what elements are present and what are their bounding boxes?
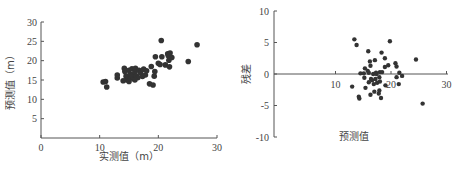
- data-point: [104, 84, 110, 90]
- data-point: [114, 72, 120, 78]
- data-point: [378, 79, 382, 83]
- data-point: [397, 82, 401, 86]
- y-tick-label: 0: [264, 69, 269, 80]
- data-point: [366, 49, 370, 53]
- data-point: [377, 91, 381, 95]
- data-point: [350, 84, 354, 88]
- data-point: [394, 75, 398, 79]
- x-axis-label: 预测值: [339, 130, 369, 142]
- y-tick-label: 20: [27, 55, 37, 66]
- y-axis-label: 残差: [240, 64, 252, 84]
- y-tick-label: -10: [256, 132, 269, 143]
- x-axis-label: 实测值（m）: [99, 150, 159, 162]
- x-tick-label: 10: [331, 79, 341, 90]
- data-point: [368, 59, 372, 63]
- data-point: [368, 64, 372, 68]
- data-point: [368, 93, 372, 97]
- data-point: [383, 56, 387, 60]
- data-point: [362, 76, 366, 80]
- x-tick-label: 30: [442, 79, 452, 90]
- x-tick-label: 20: [386, 79, 396, 90]
- data-point: [352, 37, 356, 41]
- data-point: [167, 64, 173, 70]
- y-tick-label: 5: [264, 37, 269, 48]
- data-point: [362, 71, 366, 75]
- data-points: [350, 37, 425, 106]
- y-tick-label: 25: [27, 36, 37, 47]
- data-point: [414, 57, 418, 61]
- data-point: [379, 96, 383, 100]
- data-point: [373, 58, 377, 62]
- data-point: [388, 39, 392, 43]
- data-point: [132, 77, 138, 83]
- data-point: [386, 63, 390, 67]
- x-tick-label: 0: [39, 142, 44, 153]
- data-point: [159, 54, 165, 60]
- data-point: [153, 54, 159, 60]
- data-point: [363, 86, 367, 90]
- y-tick-label: 5: [32, 113, 37, 124]
- y-tick-label: 10: [27, 94, 37, 105]
- data-point: [420, 101, 424, 105]
- data-point: [150, 82, 156, 88]
- charts-canvas: 51015202530 0102030 实测值（m） 预测值（m） -10-50…: [0, 0, 457, 174]
- data-point: [394, 64, 398, 68]
- data-point: [167, 50, 173, 56]
- x-tick-label: 30: [212, 142, 222, 153]
- data-point: [103, 79, 109, 85]
- y-tick-label: -5: [261, 100, 269, 111]
- data-point: [379, 50, 383, 54]
- data-point: [383, 83, 387, 87]
- data-point: [370, 78, 374, 82]
- data-point: [367, 71, 371, 75]
- data-point: [374, 72, 378, 76]
- data-point: [354, 43, 358, 47]
- y-tick-label: 15: [27, 75, 37, 86]
- data-point: [357, 96, 361, 100]
- y-tick-label: 30: [27, 17, 37, 28]
- data-point: [152, 69, 158, 75]
- y-axis-label: 预测值（m）: [4, 50, 16, 110]
- data-point: [158, 38, 164, 44]
- data-point: [185, 59, 191, 65]
- data-point: [380, 70, 384, 74]
- data-point: [372, 89, 376, 93]
- data-points: [100, 38, 199, 90]
- y-tick-label: 10: [259, 6, 269, 17]
- data-point: [157, 62, 163, 68]
- data-point: [194, 42, 200, 48]
- data-point: [148, 64, 154, 70]
- data-point: [400, 74, 404, 78]
- scatter-predicted-vs-measured: 51015202530 0102030 实测值（m） 预测值（m）: [4, 17, 222, 163]
- data-point: [126, 79, 132, 85]
- scatter-residuals: -10-50510 102030 预测值 残差: [240, 6, 452, 143]
- data-point: [120, 78, 126, 84]
- data-point: [144, 68, 150, 74]
